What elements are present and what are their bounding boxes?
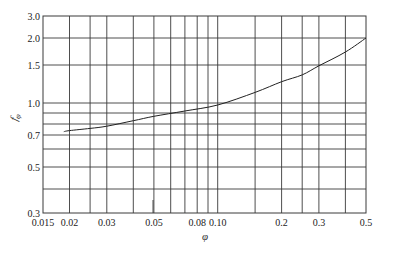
x-tick-label: 0.03 [98, 217, 116, 228]
x-tick-label: 0.05 [145, 217, 163, 228]
y-tick-label: 0.7 [28, 130, 41, 141]
x-tick-label: 0.2 [275, 217, 288, 228]
x-axis-label: φ [202, 230, 208, 242]
x-tick-label: 0.015 [32, 217, 55, 228]
y-axis-label-subscript: φ [13, 113, 23, 120]
y-tick-label: 2.0 [28, 33, 41, 44]
x-axis-tick-labels: 0.0150.020.030.050.080.100.20.30.5 [32, 217, 373, 228]
x-tick-label: 0.10 [209, 217, 227, 228]
horizontal-gridlines [43, 38, 366, 189]
chart: 0.0150.020.030.050.080.100.20.30.5 3.02.… [0, 0, 396, 254]
x-tick-label: 0.3 [313, 217, 326, 228]
y-tick-label: 3.0 [28, 11, 41, 22]
x-tick-label: 0.08 [188, 217, 206, 228]
y-tick-label: 0.5 [28, 162, 41, 173]
y-tick-label: 1.5 [28, 60, 41, 71]
y-axis-label: fφ [7, 111, 23, 122]
x-tick-label: 0.02 [61, 217, 79, 228]
y-axis-tick-labels: 3.02.01.51.00.70.50.3 [28, 11, 41, 219]
svg-text:fφ: fφ [7, 111, 23, 122]
y-tick-label: 0.3 [28, 208, 41, 219]
plot-frame [43, 16, 366, 213]
vertical-gridlines [70, 16, 346, 213]
data-curve [64, 38, 366, 132]
x-tick-label: 0.5 [360, 217, 373, 228]
y-tick-label: 1.0 [28, 98, 41, 109]
